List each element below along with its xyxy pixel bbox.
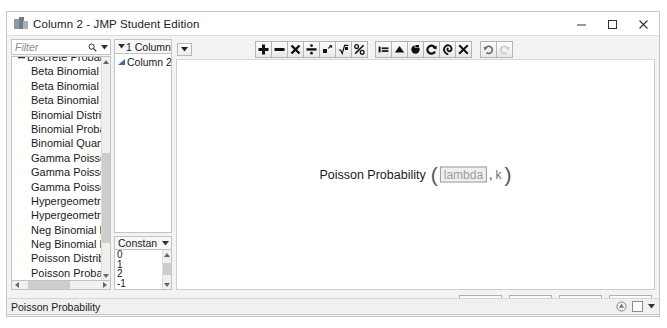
tree-item-binomial-distrib[interactable]: Binomial Distrib bbox=[12, 108, 101, 122]
tree-vertical-scrollbar[interactable] bbox=[101, 57, 110, 280]
resize-grip-icon[interactable] bbox=[615, 301, 627, 313]
maximize-icon[interactable] bbox=[597, 12, 628, 36]
tree-item-neg-binomial-di[interactable]: Neg Binomial Di bbox=[12, 223, 101, 237]
tree-item-beta-binomial-d[interactable]: Beta Binomial D bbox=[12, 64, 101, 78]
tree-item-beta-binomial-pr[interactable]: Beta Binomial Pr bbox=[12, 79, 101, 93]
tree-item-binomial-probab[interactable]: Binomial Probab bbox=[12, 122, 101, 136]
window-controls bbox=[566, 12, 659, 36]
window-title: Column 2 - JMP Student Edition bbox=[33, 18, 199, 30]
scroll-down-icon[interactable] bbox=[163, 280, 171, 289]
filter-input[interactable]: Filter bbox=[12, 41, 86, 53]
tree-item-beta-binomial-q[interactable]: Beta Binomial Q bbox=[12, 93, 101, 107]
tree-item-label: Gamma Poisson bbox=[31, 180, 101, 194]
tree-item-poisson-distribut[interactable]: Poisson Distribut bbox=[12, 251, 101, 265]
columns-chevron-down-icon[interactable] bbox=[117, 44, 126, 49]
tree-item-poisson-probabil[interactable]: Poisson Probabil bbox=[12, 266, 101, 280]
tree-item-gamma-poisson[interactable]: Gamma Poisson bbox=[12, 180, 101, 194]
status-chevron-down-icon[interactable] bbox=[648, 304, 655, 309]
list-item[interactable]: Column 2 bbox=[115, 55, 171, 69]
scroll-up-icon[interactable] bbox=[102, 57, 110, 66]
toolbar-group-history bbox=[480, 41, 512, 58]
scroll-up-icon[interactable] bbox=[163, 250, 171, 259]
tree-item-label: Hypergeometric bbox=[31, 208, 101, 222]
constants-scrollbar[interactable] bbox=[162, 250, 171, 289]
peel-icon[interactable] bbox=[391, 41, 408, 58]
formula-toolbar bbox=[176, 39, 655, 59]
tree-item-binomial-quanti[interactable]: Binomial Quanti bbox=[12, 136, 101, 150]
function-tree-items: Discrete ProbabilityBeta Binomial DBeta … bbox=[12, 56, 101, 280]
rotate-icon[interactable] bbox=[423, 41, 440, 58]
tree-item-neg-binomial-pr[interactable]: Neg Binomial Pr bbox=[12, 237, 101, 251]
tree-item-label: Discrete Probability bbox=[27, 56, 101, 64]
tree-group-discrete-probability[interactable]: Discrete Probability bbox=[12, 56, 101, 64]
status-bar-right bbox=[615, 301, 655, 313]
list-item[interactable]: 1 bbox=[117, 260, 162, 270]
columns-and-constants: 1 Columns Column 2 Constan 0 bbox=[114, 39, 172, 290]
toolbar-group-operators bbox=[255, 41, 367, 58]
tree-horizontal-scrollbar[interactable] bbox=[11, 280, 111, 290]
plus-icon[interactable] bbox=[255, 41, 272, 58]
list-item[interactable]: -1 bbox=[117, 279, 162, 289]
redo-icon bbox=[496, 41, 513, 58]
panel-menu-icon[interactable] bbox=[177, 43, 192, 56]
filter-bar[interactable]: Filter bbox=[11, 39, 111, 55]
filter-dropdown-icon[interactable] bbox=[99, 45, 110, 50]
divide-icon[interactable] bbox=[303, 41, 320, 58]
formula-canvas[interactable]: Poisson Probability ( lambda , k ) bbox=[176, 59, 655, 290]
tree-item-label: Beta Binomial D bbox=[31, 64, 101, 78]
column-name: Column 2 bbox=[127, 55, 172, 69]
tree-item-label: Beta Binomial Pr bbox=[31, 79, 101, 93]
insert-icon[interactable] bbox=[375, 41, 392, 58]
tree-item-label: Gamma Poisson bbox=[31, 151, 101, 165]
search-icon[interactable] bbox=[86, 43, 99, 52]
multiply-icon[interactable] bbox=[287, 41, 304, 58]
tree-item-hypergeometric[interactable]: Hypergeometric bbox=[12, 208, 101, 222]
columns-panel-header[interactable]: 1 Columns bbox=[114, 39, 172, 53]
minimize-icon[interactable] bbox=[566, 12, 597, 36]
columns-list[interactable]: Column 2 bbox=[114, 53, 172, 233]
jmp-app-icon bbox=[14, 17, 28, 31]
constants-panel-header[interactable]: Constan bbox=[114, 236, 172, 250]
constants-panel-title: Constan bbox=[118, 237, 157, 249]
constants-chevron-down-icon[interactable] bbox=[162, 241, 169, 246]
tree-item-label: Poisson Probabil bbox=[31, 266, 101, 280]
list-item[interactable]: 0 bbox=[117, 250, 162, 260]
undo-icon[interactable] bbox=[480, 41, 497, 58]
tree-hscroll-thumb[interactable] bbox=[28, 281, 70, 289]
formula-editor-pane: Poisson Probability ( lambda , k ) bbox=[176, 39, 655, 290]
constants-list[interactable]: 0 1 2 -1 bbox=[114, 250, 172, 290]
minus-twisty-icon[interactable] bbox=[16, 56, 27, 61]
scroll-left-icon[interactable] bbox=[12, 282, 22, 288]
swap-icon[interactable] bbox=[407, 41, 424, 58]
tree-item-label: Neg Binomial Pr bbox=[31, 237, 101, 251]
delete-x-icon[interactable] bbox=[455, 41, 472, 58]
root-icon[interactable] bbox=[335, 41, 352, 58]
tree-item-hypergeometric[interactable]: Hypergeometric bbox=[12, 194, 101, 208]
columns-panel-title: 1 Columns bbox=[126, 41, 171, 53]
scroll-down-icon[interactable] bbox=[102, 271, 110, 280]
tree-item-label: Binomial Distrib bbox=[31, 108, 101, 122]
dialog-body: Filter Discrete ProbabilityBeta Binomial… bbox=[7, 36, 659, 290]
status-checkbox[interactable] bbox=[632, 301, 643, 312]
function-tree[interactable]: Discrete ProbabilityBeta Binomial DBeta … bbox=[11, 56, 111, 280]
status-text: Poisson Probability bbox=[11, 301, 615, 313]
formula-expression[interactable]: Poisson Probability ( lambda , k ) bbox=[319, 164, 511, 185]
minus-icon[interactable] bbox=[271, 41, 288, 58]
exponent-icon[interactable] bbox=[319, 41, 336, 58]
percent-icon[interactable] bbox=[351, 41, 368, 58]
formula-function-name[interactable]: Poisson Probability bbox=[319, 168, 425, 182]
tree-item-label: Binomial Probab bbox=[31, 122, 101, 136]
scroll-right-icon[interactable] bbox=[100, 282, 110, 288]
tree-item-label: Gamma Poisson bbox=[31, 165, 101, 179]
spiral-icon[interactable] bbox=[439, 41, 456, 58]
toolbar-group-edit bbox=[375, 41, 471, 58]
tree-item-gamma-poisson[interactable]: Gamma Poisson bbox=[12, 151, 101, 165]
title-bar: Column 2 - JMP Student Edition bbox=[7, 12, 659, 36]
constants-scroll-thumb[interactable] bbox=[163, 263, 171, 275]
tree-item-gamma-poisson[interactable]: Gamma Poisson bbox=[12, 165, 101, 179]
close-icon[interactable] bbox=[628, 12, 659, 36]
formula-arg-k[interactable]: k bbox=[494, 168, 504, 182]
tree-item-label: Beta Binomial Q bbox=[31, 93, 101, 107]
formula-arg-lambda[interactable]: lambda bbox=[440, 167, 487, 183]
tree-scroll-thumb[interactable] bbox=[102, 153, 110, 243]
